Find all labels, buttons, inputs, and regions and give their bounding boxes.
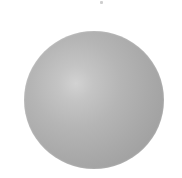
gray-sphere <box>24 31 164 169</box>
image-artifact-speck <box>100 1 103 4</box>
image-canvas <box>0 0 182 178</box>
sphere-rim-highlight <box>24 31 164 169</box>
